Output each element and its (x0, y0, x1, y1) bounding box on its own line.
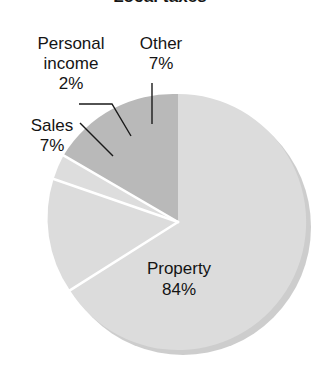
slice-label-personal-income: Personal income 2% (12, 34, 130, 94)
slice-label-personal-income-line2: income (12, 54, 130, 74)
slice-value-other: 7% (126, 54, 196, 74)
slice-label-sales-name: Sales (4, 116, 100, 136)
slice-value-personal-income: 2% (12, 74, 130, 94)
slice-label-other-name: Other (126, 34, 196, 54)
slice-label-property-name: Property (108, 258, 250, 279)
slice-value-property: 84% (108, 279, 250, 300)
slice-value-sales: 7% (4, 136, 100, 156)
slice-label-personal-income-line1: Personal (12, 34, 130, 54)
slice-label-sales: Sales 7% (4, 116, 100, 156)
slice-label-property: Property 84% (108, 258, 250, 300)
pie-chart-figure: Local taxes Personal income 2% (0, 0, 320, 375)
slice-label-other: Other 7% (126, 34, 196, 74)
